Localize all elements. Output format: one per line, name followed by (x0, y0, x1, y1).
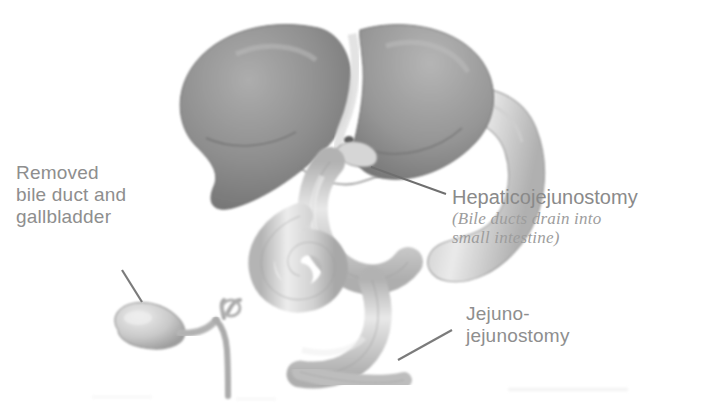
label-hepaticojejunostomy-subtitle: (Bile ducts drain into small intestine) (452, 209, 601, 247)
excised-gallbladder (115, 302, 185, 349)
label-jejunojejunostomy: Jejuno- jejunostomy (466, 303, 570, 347)
excised-cystic-duct (180, 320, 216, 333)
illustration-figure: Removed bile duct and gallbladder Hepati… (0, 0, 719, 408)
label-removed-bile-duct-and-gallbladder: Removed bile duct and gallbladder (16, 162, 126, 229)
jejunojejunostomy-junction (300, 372, 404, 383)
leader-removed-line (122, 270, 142, 302)
excised-common-bile-duct (216, 300, 240, 396)
label-hepaticojejunostomy: Hepaticojejunostomy (452, 186, 638, 209)
leader-jejunojejunostomy-line (398, 330, 452, 360)
